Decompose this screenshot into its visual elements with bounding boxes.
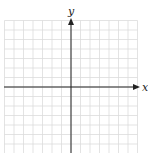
y-axis-label: y <box>67 5 75 18</box>
coordinate-plane: x y <box>0 0 148 153</box>
x-axis-arrow-icon <box>133 84 140 90</box>
y-axis-arrow-icon <box>68 18 74 25</box>
x-axis-label: x <box>142 81 148 94</box>
